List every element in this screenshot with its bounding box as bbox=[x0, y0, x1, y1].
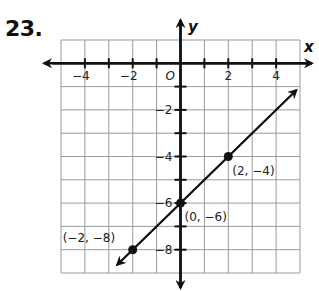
y-axis-label: y bbox=[188, 18, 199, 36]
data-point bbox=[224, 152, 233, 161]
y-tick-label: −2 bbox=[155, 103, 173, 117]
x-tick-label: −4 bbox=[72, 69, 90, 83]
x-tick-label: −2 bbox=[120, 69, 138, 83]
y-tick-label: −8 bbox=[155, 243, 173, 257]
y-tick-label: −4 bbox=[155, 150, 173, 164]
coordinate-graph: −4−224−2−4−6−8Oxy (−2, −8)(0, −6)(2, −4) bbox=[0, 0, 319, 291]
point-label: (2, −4) bbox=[232, 164, 274, 178]
data-point bbox=[128, 245, 137, 254]
x-tick-label: 2 bbox=[224, 69, 232, 83]
origin-label: O bbox=[166, 69, 175, 83]
point-label: (0, −6) bbox=[185, 210, 227, 224]
point-label: (−2, −8) bbox=[63, 231, 115, 245]
x-tick-label: 4 bbox=[272, 69, 280, 83]
data-point bbox=[176, 199, 185, 208]
y-tick-label: −6 bbox=[155, 196, 173, 210]
x-axis-label: x bbox=[303, 38, 315, 56]
